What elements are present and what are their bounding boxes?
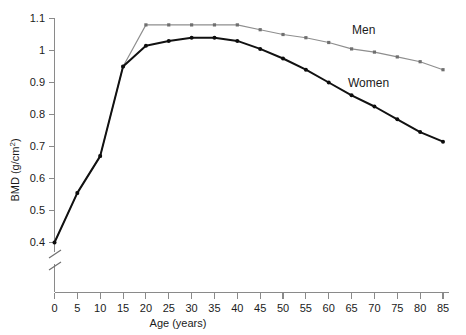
data-point-marker [396, 55, 399, 58]
x-tick-label: 45 [254, 302, 266, 314]
x-tick-label: 40 [231, 302, 243, 314]
x-tick-label: 55 [300, 302, 312, 314]
data-point-marker [190, 36, 194, 40]
data-point-marker [144, 44, 148, 48]
x-tick-label: 85 [437, 302, 449, 314]
data-point-marker [167, 23, 170, 26]
data-point-marker [212, 36, 216, 40]
women-line [55, 38, 444, 243]
x-tick-label: 30 [185, 302, 197, 314]
x-tick-label: 20 [140, 302, 152, 314]
data-point-marker [395, 117, 399, 121]
y-tick-label: 0.6 [30, 172, 45, 184]
x-tick-label: 25 [163, 302, 175, 314]
data-point-marker [373, 51, 376, 54]
data-point-marker [419, 60, 422, 63]
y-tick-label: 0.8 [30, 108, 45, 120]
data-point-marker [350, 47, 353, 50]
data-point-marker [75, 191, 79, 195]
data-point-marker [418, 130, 422, 134]
data-point-marker [258, 47, 262, 51]
series-women [53, 36, 446, 245]
x-axis-title: Age (years) [150, 317, 207, 329]
y-tick-label: 1.1 [30, 12, 45, 24]
x-tick-label: 75 [391, 302, 403, 314]
data-point-marker [213, 23, 216, 26]
x-tick-label: 0 [51, 302, 57, 314]
data-point-marker [235, 39, 239, 43]
x-tick-label: 50 [277, 302, 289, 314]
data-point-marker [167, 39, 171, 43]
data-point-marker [327, 41, 330, 44]
data-point-marker [98, 154, 102, 158]
data-point-marker [441, 140, 445, 144]
x-tick-label: 15 [117, 302, 129, 314]
y-tick-label: 0.9 [30, 76, 45, 88]
bmd-age-chart: 1.1 1 0.9 0.8 0.7 0.6 0.5 0.4 0510152025… [0, 0, 466, 335]
x-tick-label: 65 [345, 302, 357, 314]
data-point-marker [236, 23, 239, 26]
data-point-marker [281, 57, 285, 61]
x-tick-group: 0510152025303540455055606570758085 [51, 293, 449, 315]
women-markers [53, 36, 446, 245]
series-men [53, 23, 445, 244]
data-point-marker [121, 65, 125, 69]
data-point-marker [372, 105, 376, 109]
men-markers [53, 23, 445, 244]
y-tick-label: 1 [39, 44, 45, 56]
x-tick-label: 5 [74, 302, 80, 314]
women-series-label: Women [348, 76, 389, 90]
data-point-marker [350, 93, 354, 97]
data-point-marker [327, 81, 331, 85]
data-point-marker [304, 68, 308, 72]
x-tick-label: 70 [368, 302, 380, 314]
x-tick-label: 80 [414, 302, 426, 314]
y-tick-group: 1.1 1 0.9 0.8 0.7 0.6 0.5 0.4 [30, 12, 55, 248]
x-tick-label: 60 [323, 302, 335, 314]
data-point-marker [281, 33, 284, 36]
chart-canvas: 1.1 1 0.9 0.8 0.7 0.6 0.5 0.4 0510152025… [0, 0, 466, 335]
data-point-marker [53, 241, 57, 245]
data-point-marker [190, 23, 193, 26]
men-series-label: Men [352, 23, 375, 37]
y-tick-label: 0.7 [30, 140, 45, 152]
y-tick-label: 0.5 [30, 204, 45, 216]
y-axis-title: BMD (g/cm2) [8, 138, 21, 201]
data-point-marker [144, 23, 147, 26]
men-line [55, 25, 444, 243]
data-point-marker [304, 36, 307, 39]
x-tick-label: 10 [94, 302, 106, 314]
x-tick-label: 35 [208, 302, 220, 314]
data-point-marker [259, 28, 262, 31]
data-point-marker [441, 68, 444, 71]
y-tick-label: 0.4 [30, 236, 45, 248]
